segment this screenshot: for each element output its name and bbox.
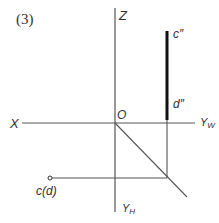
- yw-axis-label: YW: [200, 116, 216, 130]
- x-axis-label: X: [9, 116, 20, 131]
- yh-axis-label: YH: [122, 202, 135, 216]
- figure-number: (3): [16, 11, 34, 28]
- projection-diagram: (3) Z X O YW YH c″ d″ c(d): [0, 0, 219, 223]
- cd-point-label: c(d): [36, 184, 57, 198]
- origin-label: O: [117, 108, 126, 122]
- c-double-prime-label: c″: [173, 27, 184, 41]
- z-axis-label: Z: [118, 8, 128, 23]
- cd-point: [48, 176, 52, 180]
- d-double-prime-label: d″: [173, 97, 185, 111]
- construction-line-45deg: [115, 123, 187, 197]
